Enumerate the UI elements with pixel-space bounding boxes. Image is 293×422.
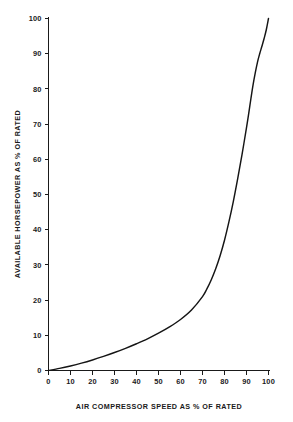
y-tick-label: 60 [33,155,42,164]
x-tick-label: 90 [242,377,251,386]
x-tick-label: 0 [46,377,50,386]
x-tick-label: 20 [88,377,97,386]
x-axis-title: AIR COMPRESSOR SPEED AS % OF RATED [76,402,242,411]
y-tick-label: 50 [33,190,42,199]
x-tick-label: 80 [220,377,229,386]
x-tick-label: 40 [132,377,141,386]
y-tick-label: 30 [33,261,42,270]
x-tick-label: 30 [110,377,119,386]
x-tick-label: 60 [176,377,185,386]
y-tick-label: 20 [33,296,42,305]
line-chart: 0102030405060708090100 AVAILABLE HORSEPO… [0,0,293,422]
x-tick-label: 70 [198,377,207,386]
x-tick-label: 50 [154,377,163,386]
y-axis-title: AVAILABLE HORSEPOWER AS % OF RATED [13,110,22,278]
y-tick-label: 40 [33,225,42,234]
chart-figure: 0102030405060708090100 AVAILABLE HORSEPO… [0,0,293,422]
x-tick-label: 10 [66,377,75,386]
y-tick-label: 80 [33,85,42,94]
chart-background [0,0,293,422]
y-tick-label: 70 [33,120,42,129]
y-tick-label: 0 [37,366,41,375]
y-tick-label: 10 [33,331,42,340]
x-tick-label: 100 [262,377,275,386]
y-tick-label: 90 [33,49,42,58]
y-tick-label: 100 [29,14,42,23]
